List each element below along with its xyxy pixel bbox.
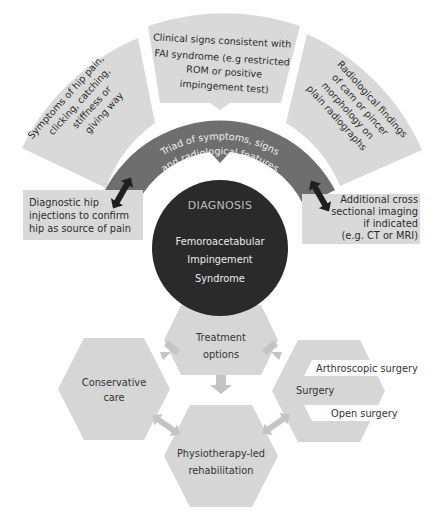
diagnosis-title: DIAGNOSIS — [188, 199, 252, 212]
diagnosis-name-line1: Femoroacetabular — [176, 236, 266, 247]
svg-text:(e.g. CT or MRI): (e.g. CT or MRI) — [342, 230, 418, 241]
hex-conservative-care — [58, 338, 170, 440]
surgery-option-open: Open surgery — [331, 408, 398, 419]
diagnosis-name-line3: Syndrome — [195, 273, 245, 284]
svg-text:hip as source of pain: hip as source of pain — [29, 223, 131, 234]
svg-text:injections to confirm: injections to confirm — [29, 210, 129, 221]
physio-label-line1: Physiotherapy-led — [177, 448, 265, 459]
treatment-label-line2: options — [203, 349, 239, 360]
surgery-label: Surgery — [296, 385, 335, 396]
svg-text:Additional cross: Additional cross — [340, 194, 418, 205]
conservative-label-line1: Conservative — [82, 377, 146, 388]
diagnosis-name-line2: Impingement — [187, 254, 253, 265]
physio-label-line2: rehabilitation — [188, 465, 253, 476]
svg-text:Diagnostic hip: Diagnostic hip — [29, 197, 99, 208]
fai-diagnosis-treatment-diagram: Symptoms of hip pain, clicking, catching… — [0, 0, 441, 518]
svg-text:if indicated: if indicated — [363, 218, 418, 229]
surgery-option-arthroscopic: Arthroscopic surgery — [316, 363, 418, 374]
treatment-label-line1: Treatment — [195, 332, 246, 343]
conservative-label-line2: care — [103, 392, 124, 403]
arrow-to-physio-icon — [210, 375, 232, 394]
svg-text:sectional imaging: sectional imaging — [331, 206, 418, 217]
